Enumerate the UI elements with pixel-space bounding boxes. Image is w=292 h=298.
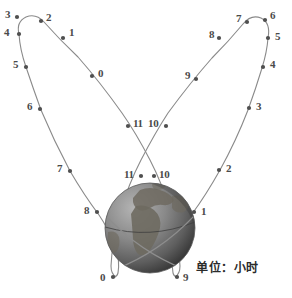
hour-label-left-2: 2 [46, 12, 51, 23]
hour-label-left-6: 6 [27, 101, 32, 112]
marker-right-3 [247, 106, 251, 110]
hour-label-left-10: 10 [159, 169, 169, 180]
marker-right-10 [164, 124, 168, 128]
unit-caption: 单位：小时 [196, 258, 259, 275]
orbit-diagram [0, 0, 292, 298]
marker-right-7 [245, 20, 249, 24]
hour-label-right-4: 4 [270, 59, 275, 70]
hour-label-left-1: 1 [69, 27, 74, 38]
marker-right-6 [263, 18, 267, 22]
hour-label-left-8: 8 [84, 205, 89, 216]
marker-left-6 [38, 107, 42, 111]
marker-left-7 [68, 169, 72, 173]
hour-label-left-4: 4 [4, 27, 9, 38]
marker-right-5 [266, 36, 270, 40]
hour-label-left-11: 11 [133, 118, 143, 129]
hour-label-left-0: 0 [98, 68, 103, 79]
orbit-path-left-lower [19, 34, 119, 277]
hour-label-right-0: 0 [100, 272, 105, 283]
marker-right-4 [261, 65, 265, 69]
hour-label-right-1: 1 [201, 206, 206, 217]
marker-left-3 [15, 15, 19, 19]
hour-label-left-5: 5 [13, 59, 18, 70]
hour-label-left-3: 3 [5, 9, 10, 20]
hour-label-right-2: 2 [226, 163, 231, 174]
marker-left-10 [152, 174, 156, 178]
orbit-figure: 3 2 1 0 11 10 9 8 7 6 5 4 6 7 8 9 10 11 … [0, 0, 292, 298]
hour-label-right-10: 10 [148, 118, 158, 129]
marker-left-2 [39, 19, 43, 23]
marker-right-0 [111, 275, 115, 279]
marker-right-2 [217, 168, 221, 172]
hour-label-right-3: 3 [256, 101, 261, 112]
hour-label-right-11: 11 [124, 169, 134, 180]
hour-label-right-9: 9 [185, 70, 190, 81]
marker-left-11 [126, 124, 130, 128]
marker-right-9 [194, 77, 198, 81]
hour-label-left-9: 9 [183, 272, 188, 283]
marker-left-1 [61, 36, 65, 40]
marker-left-0 [90, 74, 94, 78]
hour-label-right-8: 8 [209, 29, 214, 40]
marker-left-9 [175, 275, 179, 279]
hour-label-left-7: 7 [57, 163, 62, 174]
hour-label-right-6: 6 [270, 10, 275, 21]
marker-right-11 [139, 174, 143, 178]
marker-right-1 [192, 210, 196, 214]
hour-label-right-5: 5 [275, 31, 280, 42]
marker-left-4 [17, 32, 21, 36]
marker-left-5 [24, 65, 28, 69]
earth-globe [105, 183, 195, 273]
marker-right-8 [217, 36, 221, 40]
hour-label-right-7: 7 [236, 13, 241, 24]
marker-left-8 [95, 210, 99, 214]
